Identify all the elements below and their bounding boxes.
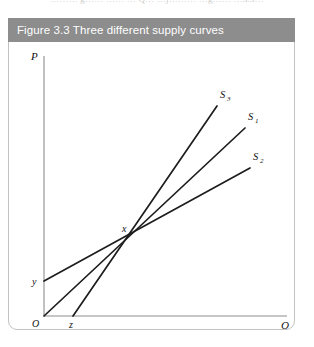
- svg-text:S: S: [253, 151, 259, 162]
- supply-curve-s3-label: S 3: [220, 89, 231, 103]
- supply-curve-s3-line: [73, 106, 217, 316]
- svg-text:3: 3: [226, 95, 231, 103]
- supply-curve-s2-line: [44, 168, 250, 281]
- supply-curve-s2-label: S 2: [253, 151, 264, 165]
- x-axis-label: Q: [281, 319, 289, 329]
- svg-text:1: 1: [255, 117, 259, 125]
- figure-title: Figure 3.3 Three different supply curves: [8, 24, 224, 36]
- figure-box: Figure 3.3 Three different supply curves…: [8, 18, 295, 330]
- supply-curves-chart: P Q O x y z S 3 S 1: [9, 42, 294, 329]
- point-label-x: x: [121, 223, 127, 234]
- point-label-z: z: [68, 319, 73, 329]
- point-label-y: y: [31, 276, 37, 287]
- y-axis-label: P: [30, 50, 38, 62]
- figure-header-bar: Figure 3.3 Three different supply curves: [8, 18, 295, 42]
- svg-text:2: 2: [260, 157, 264, 165]
- cutoff-body-text: ……… g…… …… … Q… …j……… …g…… …3.3…: [0, 0, 314, 14]
- svg-text:S: S: [248, 111, 254, 122]
- origin-label: O: [32, 318, 39, 329]
- cutoff-body-text-line: ……… g…… …… … Q… …j……… …g…… …3.3…: [50, 0, 263, 3]
- supply-curve-s1-label: S 1: [248, 111, 259, 125]
- plot-area: P Q O x y z S 3 S 1: [9, 42, 294, 329]
- supply-curve-s1-line: [44, 128, 245, 316]
- svg-text:S: S: [220, 89, 226, 100]
